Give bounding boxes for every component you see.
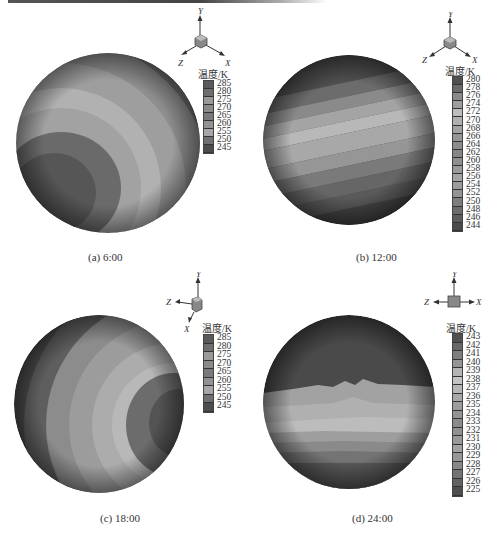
svg-text:X: X xyxy=(475,297,482,307)
svg-text:Z: Z xyxy=(422,55,428,64)
colorbar xyxy=(452,333,463,497)
svg-text:Z: Z xyxy=(424,297,430,307)
colorbar-swatch xyxy=(204,386,213,395)
colorbar-swatch xyxy=(453,487,462,496)
colorbar xyxy=(203,334,214,413)
colorbar-swatch xyxy=(453,436,462,445)
caption-c: (c) 18:00 xyxy=(100,512,140,524)
colorbar-swatch xyxy=(204,121,213,129)
colorbar-tick-label: 225 xyxy=(466,485,480,495)
colorbar-swatch xyxy=(453,150,462,158)
colorbar xyxy=(203,80,214,154)
colorbar-swatch xyxy=(453,142,462,150)
colorbar-swatch xyxy=(453,377,462,386)
colorbar-swatch xyxy=(204,352,213,361)
caption-d: (d) 24:00 xyxy=(352,512,393,524)
colorbar-swatch xyxy=(453,134,462,142)
sphere-6h xyxy=(16,53,200,233)
colorbar-swatch xyxy=(204,113,213,121)
colorbar-swatch xyxy=(453,215,462,223)
svg-text:Y: Y xyxy=(196,272,202,279)
caption-b: (b) 12:00 xyxy=(356,251,397,263)
svg-text:Y: Y xyxy=(198,8,204,16)
svg-text:X: X xyxy=(183,324,190,334)
colorbar-swatch xyxy=(204,369,213,378)
colorbar-swatch xyxy=(453,360,462,369)
colorbar-tick-label: 245 xyxy=(217,401,231,411)
axis-triad-d: Y X Z xyxy=(420,272,482,316)
colorbar-swatch xyxy=(204,129,213,137)
colorbar-swatch xyxy=(204,395,213,404)
colorbar-swatch xyxy=(453,77,462,85)
sphere-12h xyxy=(263,55,435,225)
colorbar-swatch xyxy=(453,85,462,93)
colorbar-swatch xyxy=(204,361,213,370)
colorbar-swatch xyxy=(453,109,462,117)
colorbar-swatch xyxy=(453,166,462,174)
caption-a: (a) 6:00 xyxy=(88,251,123,263)
svg-text:Z: Z xyxy=(166,297,172,307)
colorbar-swatch xyxy=(453,182,462,190)
sphere-18h xyxy=(14,315,184,493)
colorbar-swatch xyxy=(204,344,213,353)
colorbar xyxy=(452,76,463,232)
colorbar-swatch xyxy=(453,385,462,394)
svg-text:Y: Y xyxy=(448,12,454,19)
svg-text:Z: Z xyxy=(178,58,184,68)
colorbar-swatch xyxy=(453,343,462,352)
colorbar-swatch xyxy=(453,93,462,101)
colorbar-swatch xyxy=(453,394,462,403)
colorbar-swatch xyxy=(453,158,462,166)
colorbar-swatch xyxy=(453,470,462,479)
colorbar-swatch xyxy=(204,335,213,344)
colorbar-swatch xyxy=(453,462,462,471)
colorbar-swatch xyxy=(453,198,462,206)
colorbar-swatch xyxy=(453,419,462,428)
colorbar-swatch xyxy=(453,223,462,231)
colorbar-swatch xyxy=(453,351,462,360)
colorbar-swatch xyxy=(204,145,213,153)
svg-text:Y: Y xyxy=(452,272,458,279)
colorbar-tick-label: 244 xyxy=(466,221,480,231)
colorbar-swatch xyxy=(204,403,213,412)
colorbar-swatch xyxy=(453,428,462,437)
colorbar-swatch xyxy=(453,126,462,134)
colorbar-tick-label: 245 xyxy=(217,143,231,153)
colorbar-swatch xyxy=(453,411,462,420)
colorbar-swatch xyxy=(453,479,462,488)
colorbar-swatch xyxy=(204,378,213,387)
colorbar-swatch xyxy=(204,105,213,113)
colorbar-swatch xyxy=(204,81,213,89)
colorbar-swatch xyxy=(453,368,462,377)
sphere-24h xyxy=(263,315,435,490)
colorbar-swatch xyxy=(204,89,213,97)
colorbar-swatch xyxy=(453,445,462,454)
colorbar-swatch xyxy=(453,117,462,125)
colorbar-swatch xyxy=(453,207,462,215)
colorbar-swatch xyxy=(453,190,462,198)
colorbar-swatch xyxy=(453,101,462,109)
colorbar-swatch xyxy=(204,97,213,105)
colorbar-swatch xyxy=(204,137,213,145)
axis-triad-a: Y X Z xyxy=(178,8,240,70)
colorbar-swatch xyxy=(453,402,462,411)
top-rule xyxy=(8,0,328,3)
colorbar-swatch xyxy=(453,174,462,182)
axis-triad-b: Y X Z xyxy=(420,12,482,64)
colorbar-swatch xyxy=(453,334,462,343)
colorbar-swatch xyxy=(453,453,462,462)
